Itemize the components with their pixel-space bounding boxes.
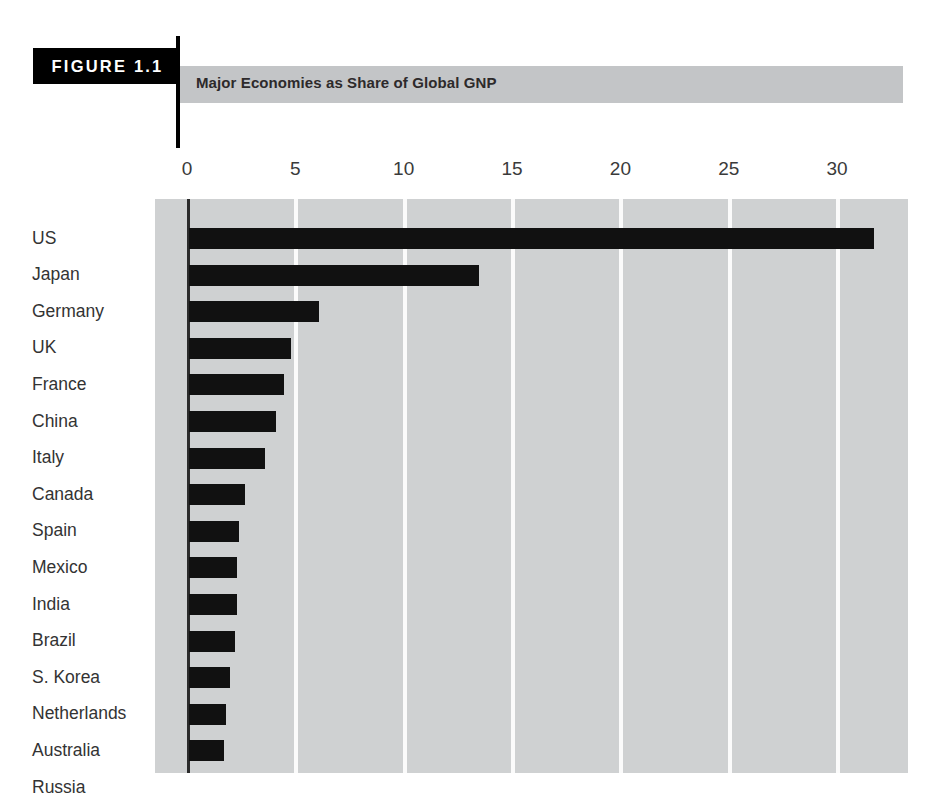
bar-japan	[189, 265, 479, 286]
category-label-s-korea: S. Korea	[32, 667, 152, 688]
gridline-30	[836, 199, 840, 773]
bar-india	[189, 594, 237, 615]
x-tick-label-30: 30	[827, 158, 848, 180]
bar-chart: 051015202530 USJapanGermanyUKFranceChina…	[0, 0, 925, 798]
bar-australia	[189, 740, 224, 761]
x-tick-label-25: 25	[718, 158, 739, 180]
category-label-canada: Canada	[32, 484, 152, 505]
bar-china	[189, 411, 276, 432]
category-label-france: France	[32, 374, 152, 395]
x-tick-label-15: 15	[501, 158, 522, 180]
category-label-spain: Spain	[32, 520, 152, 541]
x-tick-label-20: 20	[610, 158, 631, 180]
gridline-20	[619, 199, 623, 773]
gridline-25	[728, 199, 732, 773]
x-tick-label-5: 5	[290, 158, 301, 180]
bar-netherlands	[189, 704, 226, 725]
bar-germany	[189, 301, 319, 322]
category-label-netherlands: Netherlands	[32, 703, 152, 724]
category-label-us: US	[32, 228, 152, 249]
gridline-15	[511, 199, 515, 773]
category-label-italy: Italy	[32, 447, 152, 468]
category-label-india: India	[32, 594, 152, 615]
bar-us	[189, 228, 874, 249]
category-label-russia: Russia	[32, 777, 152, 798]
category-label-mexico: Mexico	[32, 557, 152, 578]
bar-spain	[189, 521, 239, 542]
bar-uk	[189, 338, 291, 359]
category-label-australia: Australia	[32, 740, 152, 761]
bar-canada	[189, 484, 245, 505]
category-label-uk: UK	[32, 337, 152, 358]
category-label-china: China	[32, 411, 152, 432]
category-axis-labels: USJapanGermanyUKFranceChinaItalyCanadaSp…	[22, 0, 152, 798]
x-tick-label-10: 10	[393, 158, 414, 180]
bar-mexico	[189, 557, 237, 578]
bar-italy	[189, 448, 265, 469]
bar-france	[189, 374, 284, 395]
category-label-japan: Japan	[32, 264, 152, 285]
category-label-brazil: Brazil	[32, 630, 152, 651]
bar-brazil	[189, 631, 235, 652]
bar-s-korea	[189, 667, 230, 688]
category-label-germany: Germany	[32, 301, 152, 322]
x-tick-label-0: 0	[182, 158, 193, 180]
plot-area	[155, 199, 908, 773]
